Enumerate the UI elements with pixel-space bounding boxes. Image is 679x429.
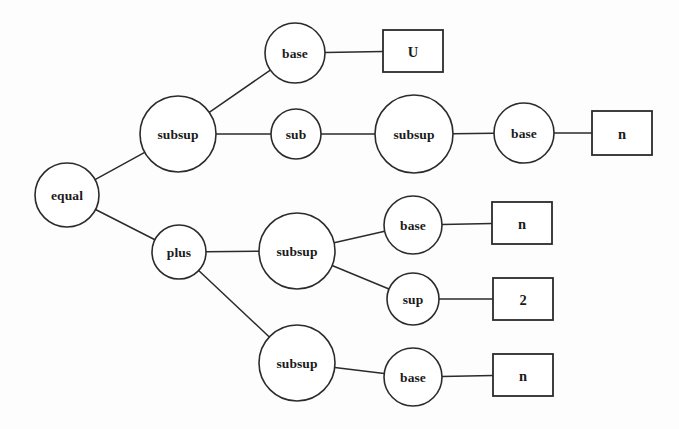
tree-node-base3[interactable]: base [384,196,442,254]
node-layer: equalsubsupbaseUsubsubsupbasenplussubsup… [35,23,652,406]
node-label-subsup4: subsup [276,356,317,371]
tree-node-base2[interactable]: base [494,103,554,163]
tree-node-leafN3[interactable]: n [493,354,553,396]
tree-edge-subsup4-to-base4 [335,368,384,374]
node-label-leaf2: 2 [519,292,526,308]
tree-node-plus[interactable]: plus [152,225,206,279]
node-label-leafN2: n [518,216,526,232]
node-label-subsup2: subsup [393,127,434,142]
tree-node-equal[interactable]: equal [35,163,99,227]
tree-node-subsup1[interactable]: subsup [140,96,216,172]
node-label-leafU: U [408,44,419,60]
tree-node-sub1[interactable]: sub [271,109,321,159]
tree-node-base4[interactable]: base [384,348,442,406]
tree-node-sup1[interactable]: sup [387,273,439,325]
tree-node-leafN2[interactable]: n [492,202,552,244]
node-label-base4: base [400,370,426,385]
tree-diagram-svg: equalsubsupbaseUsubsubsupbasenplussubsup… [0,0,679,429]
tree-edge-base3-to-leafN2 [442,224,492,225]
node-label-sub1: sub [286,127,307,142]
node-label-plus: plus [167,245,191,260]
tree-edge-subsup3-to-base3 [334,231,385,242]
node-label-base1: base [282,46,308,61]
node-label-subsup1: subsup [157,127,198,142]
tree-node-subsup2[interactable]: subsup [375,95,453,173]
tree-node-leaf2[interactable]: 2 [493,278,553,320]
tree-edge-subsup3-to-sup1 [332,266,389,290]
tree-edge-base1-to-leafU [325,52,383,53]
tree-edge-plus-to-subsup4 [199,271,270,337]
tree-edge-equal-to-subsup1 [95,152,145,179]
tree-node-leafN1[interactable]: n [592,111,652,155]
tree-edge-equal-to-plus [96,210,155,240]
tree-node-base1[interactable]: base [265,23,325,83]
tree-node-subsup4[interactable]: subsup [259,325,335,401]
node-label-subsup3: subsup [276,244,317,259]
tree-node-leafU[interactable]: U [383,30,443,72]
tree-node-subsup3[interactable]: subsup [259,213,335,289]
node-label-equal: equal [51,188,83,203]
node-label-base3: base [400,218,426,233]
node-label-leafN1: n [618,126,626,142]
tree-edge-base4-to-leafN3 [442,376,493,377]
tree-edge-subsup1-to-base1 [209,70,270,112]
node-label-sup1: sup [403,292,424,307]
tree-diagram-canvas: equalsubsupbaseUsubsubsupbasenplussubsup… [0,0,679,429]
node-label-leafN3: n [519,368,527,384]
node-label-base2: base [511,126,537,141]
